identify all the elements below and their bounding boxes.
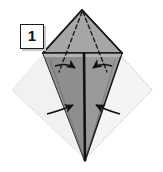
- center-crease-line: [84, 52, 85, 161]
- step-number-badge: 1: [20, 24, 44, 49]
- origami-step-figure: Origami step 1: a square sheet rotated a…: [0, 0, 163, 172]
- kite-top-facet: [43, 10, 122, 53]
